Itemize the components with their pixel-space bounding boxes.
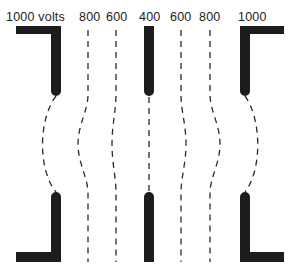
right-electrode-bottom	[240, 192, 284, 262]
equipotential-right-800	[210, 30, 220, 262]
right-electrode-top	[240, 26, 284, 96]
equipotential-left-600	[112, 30, 116, 262]
equipotential-left-1000	[43, 96, 57, 192]
left-electrode-bottom	[16, 192, 61, 262]
center-electrode-top	[144, 26, 154, 96]
left-electrode-top	[16, 26, 61, 96]
electrodes	[16, 26, 284, 262]
equipotential-left-800	[78, 30, 88, 262]
equipotential-right-600	[181, 30, 186, 262]
center-electrode-bottom	[144, 192, 154, 262]
equipotential-right-1000	[245, 96, 258, 192]
electrostatic-lens-diagram	[0, 0, 296, 275]
